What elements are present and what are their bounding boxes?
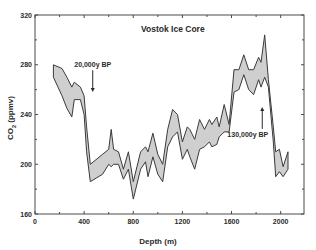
y-tick-label: 240 xyxy=(20,111,32,118)
y-tick-label: 320 xyxy=(20,12,32,19)
x-tick-label: 800 xyxy=(127,218,139,225)
x-axis-title: Depth (m) xyxy=(139,237,177,246)
arrow-up-icon xyxy=(260,107,264,111)
chart-title: Vostok Ice Core xyxy=(141,24,205,34)
annotation-label: 20,000y BP xyxy=(74,61,111,69)
x-tick-label: 1200 xyxy=(175,218,191,225)
annotation-label: 130,000y BP xyxy=(227,131,268,139)
band-layer xyxy=(53,35,288,199)
y-tick-label: 200 xyxy=(20,161,32,168)
x-tick-label: 400 xyxy=(78,218,90,225)
arrow-down-icon xyxy=(91,88,95,92)
x-tick-label: 1600 xyxy=(224,218,240,225)
y-tick-label: 160 xyxy=(20,211,32,218)
x-tick-label: 0 xyxy=(33,218,37,225)
y-axis-title: CO2 (ppmv) xyxy=(6,96,17,140)
y-axis-title-main: CO xyxy=(6,128,15,140)
y-tick-label: 280 xyxy=(20,61,32,68)
x-tick-label: 2000 xyxy=(273,218,289,225)
y-axis-title-unit: (ppmv) xyxy=(6,96,15,125)
co2-range-band xyxy=(53,35,288,199)
vostok-co2-chart: 0400800120016002000160200240280320 20,00… xyxy=(0,0,316,250)
tick-labels: 0400800120016002000160200240280320 xyxy=(20,12,288,226)
